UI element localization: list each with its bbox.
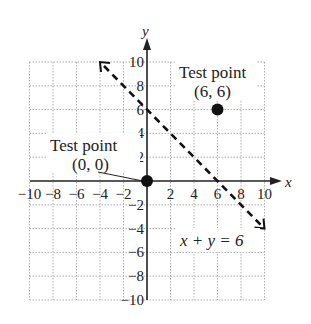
x-tick-label: 6: [214, 186, 222, 202]
y-tick-label: −10: [121, 292, 144, 308]
x-tick-label: 4: [190, 186, 198, 202]
test-point-b-coords: (6, 6): [194, 82, 231, 101]
x-axis: [30, 177, 282, 185]
test-point-origin: [141, 175, 153, 187]
test-point-b-title: Test point: [179, 63, 247, 82]
x-tick-label: 8: [237, 186, 245, 202]
y-tick-label: −6: [128, 244, 144, 260]
y-axis: [143, 38, 151, 300]
y-tick-label: 8: [137, 78, 145, 94]
x-tick-label: −4: [92, 186, 108, 202]
y-tick-label: −2: [128, 197, 144, 213]
x-tick-labels: −10−8−6−4−2246810: [18, 186, 272, 202]
y-tick-label: 10: [129, 54, 144, 70]
x-axis-label: x: [284, 174, 292, 190]
test-point-6-6: [212, 104, 224, 116]
equation-label: x + y = 6: [179, 231, 244, 250]
y-tick-label: −4: [128, 221, 144, 237]
y-tick-label: −8: [128, 268, 144, 284]
x-tick-label: 10: [257, 186, 272, 202]
x-tick-label: −6: [69, 186, 85, 202]
x-tick-label: 2: [167, 186, 175, 202]
test-point-a-title: Test point: [50, 136, 118, 155]
test-point-a-coords: (0, 0): [72, 155, 109, 174]
x-tick-label: −8: [45, 186, 61, 202]
x-tick-label: −10: [18, 186, 41, 202]
y-axis-label: y: [140, 23, 149, 39]
coordinate-plane: x y −10−8−6−4−2246810 108642−2−4−6−8−10 …: [0, 0, 311, 324]
